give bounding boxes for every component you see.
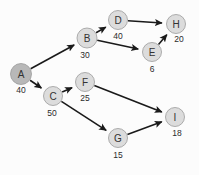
node-label-d: D	[114, 15, 121, 26]
node-label-c: C	[49, 91, 56, 102]
edge-d-to-h	[128, 21, 162, 23]
node-label-h: H	[172, 19, 179, 30]
node-label-e: E	[149, 47, 156, 58]
node-value-d: 40	[113, 31, 123, 41]
node-label-i: I	[174, 112, 177, 123]
graph-canvas: A40B30C50D40E6F25G15H20I18	[0, 0, 199, 175]
node-value-f: 25	[80, 93, 90, 103]
graph-node-e[interactable]: E6	[143, 43, 162, 75]
graph-node-d[interactable]: D40	[109, 11, 128, 42]
graph-node-h[interactable]: H20	[167, 15, 186, 45]
edge-c-to-f	[62, 88, 72, 92]
node-value-i: 18	[172, 128, 182, 138]
graph-svg: A40B30C50D40E6F25G15H20I18	[0, 0, 199, 175]
graph-node-g[interactable]: G15	[109, 129, 128, 161]
node-value-b: 30	[80, 50, 90, 60]
graph-node-i[interactable]: I18	[166, 108, 185, 139]
node-value-h: 20	[174, 34, 184, 44]
node-label-a: A	[18, 69, 25, 80]
graph-node-a[interactable]: A40	[11, 64, 32, 96]
node-label-b: B	[84, 33, 91, 44]
edge-e-to-h	[159, 35, 167, 45]
node-label-g: G	[114, 133, 122, 144]
node-value-e: 6	[150, 64, 155, 74]
node-value-c: 50	[47, 108, 57, 118]
node-value-a: 40	[16, 85, 26, 95]
edge-f-to-i	[94, 86, 162, 112]
edge-a-to-c	[30, 80, 41, 88]
graph-node-f[interactable]: F25	[76, 73, 95, 104]
edge-g-to-i	[127, 122, 161, 135]
graph-node-c[interactable]: C50	[44, 87, 63, 119]
node-value-g: 15	[113, 150, 123, 160]
edge-a-to-b	[31, 45, 75, 69]
node-label-f: F	[82, 77, 88, 88]
graph-node-b[interactable]: B30	[77, 28, 97, 60]
edge-c-to-g	[61, 101, 106, 130]
edge-b-to-d	[96, 27, 106, 33]
edge-b-to-e	[97, 40, 138, 49]
